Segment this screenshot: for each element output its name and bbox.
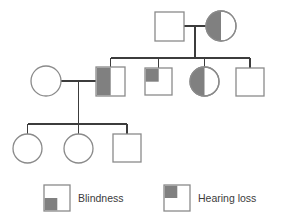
- legend-label-hearing-loss: Hearing loss: [198, 192, 256, 204]
- individual-I-1[interactable]: [155, 12, 184, 41]
- individual-II-3[interactable]: [145, 68, 172, 95]
- circle-unaffected: [31, 66, 61, 96]
- individual-III-3[interactable]: [113, 134, 141, 162]
- fill-top-left: [146, 69, 159, 82]
- individual-II-1[interactable]: [31, 66, 61, 96]
- pedigree-canvas: Blindness Hearing loss: [0, 0, 288, 220]
- legend-swatch-fill-bottom-left: [45, 198, 58, 210]
- fill-left-half: [97, 68, 111, 96]
- square-unaffected: [236, 68, 264, 96]
- circle-unaffected: [13, 134, 42, 163]
- generation-3: [13, 134, 141, 163]
- circle-unaffected: [64, 134, 93, 163]
- individual-I-2[interactable]: [206, 11, 236, 41]
- individual-III-1[interactable]: [13, 134, 42, 163]
- legend-swatch-fill-top-left: [165, 186, 178, 198]
- square-unaffected: [155, 12, 184, 41]
- individual-II-4[interactable]: [190, 67, 219, 96]
- square-unaffected: [113, 134, 141, 162]
- individual-II-2[interactable]: [96, 67, 125, 96]
- individual-III-2[interactable]: [64, 134, 93, 163]
- legend-label-blindness: Blindness: [78, 192, 124, 204]
- pedigree-figure: Blindness Hearing loss: [0, 0, 288, 220]
- individual-II-5[interactable]: [236, 68, 264, 96]
- figure-background: [0, 0, 288, 220]
